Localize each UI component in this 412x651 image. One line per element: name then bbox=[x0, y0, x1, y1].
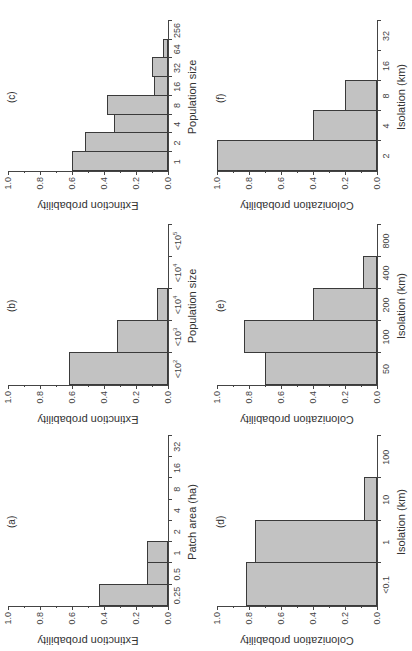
y-minor-tick bbox=[329, 171, 330, 173]
bar bbox=[147, 563, 168, 585]
y-tick-label: 0.0 bbox=[163, 391, 173, 404]
y-minor-tick bbox=[120, 606, 121, 608]
y-minor-tick bbox=[88, 171, 89, 173]
x-tick bbox=[377, 478, 381, 479]
x-tick bbox=[168, 352, 172, 353]
y-minor-tick bbox=[152, 171, 153, 173]
y-tick bbox=[40, 385, 41, 389]
y-axis-title: Extinction probability bbox=[38, 414, 139, 426]
y-tick-label: 0.8 bbox=[244, 391, 254, 404]
y-tick bbox=[313, 171, 314, 175]
chart-panel-d: 0.00.20.40.60.81.0<0.1110100Isolation (k… bbox=[217, 437, 377, 607]
y-tick-label: 0.2 bbox=[131, 612, 141, 625]
chart-panel-f: 0.00.20.40.60.81.02481632Isolation (km)C… bbox=[217, 22, 377, 172]
bar bbox=[114, 114, 168, 134]
x-tick bbox=[168, 151, 172, 152]
y-minor-tick bbox=[24, 606, 25, 608]
x-tick bbox=[168, 76, 172, 77]
plot-area: 0.00.20.40.60.81.00.250.512481632 bbox=[8, 436, 169, 607]
bar bbox=[246, 563, 377, 607]
x-tick bbox=[168, 435, 172, 436]
x-tick-label: 0.25 bbox=[172, 587, 182, 605]
bar bbox=[72, 151, 168, 171]
y-tick-label: 0.6 bbox=[276, 612, 286, 625]
figure: 0.00.20.40.60.81.00.250.512481632Patch a… bbox=[0, 0, 412, 651]
y-tick bbox=[313, 385, 314, 389]
y-tick-label: 0.4 bbox=[99, 177, 109, 190]
y-tick-label: 0.0 bbox=[372, 177, 382, 190]
y-tick bbox=[345, 385, 346, 389]
x-axis-title: Isolation (km) bbox=[395, 64, 407, 130]
y-minor-tick bbox=[152, 385, 153, 387]
x-tick bbox=[168, 563, 172, 564]
chart-panel-c: 0.00.20.40.60.81.01248163264256Populatio… bbox=[8, 22, 168, 172]
y-tick bbox=[281, 171, 282, 175]
y-minor-tick bbox=[265, 171, 266, 173]
y-tick bbox=[8, 171, 9, 175]
y-tick-label: 0.6 bbox=[67, 177, 77, 190]
bar bbox=[154, 76, 168, 96]
x-tick-label: 1 bbox=[381, 540, 391, 545]
y-tick-label: 1.0 bbox=[3, 612, 13, 625]
y-tick-label: 0.0 bbox=[372, 391, 382, 404]
x-tick-label: 4 bbox=[172, 122, 182, 127]
bar bbox=[363, 256, 377, 289]
bar bbox=[313, 288, 377, 321]
bar bbox=[217, 140, 377, 171]
y-tick bbox=[72, 171, 73, 175]
y-tick-label: 0.6 bbox=[67, 612, 77, 625]
bar bbox=[364, 478, 377, 522]
x-tick-label: 4 bbox=[381, 123, 391, 128]
y-minor-tick bbox=[361, 171, 362, 173]
y-tick bbox=[8, 606, 9, 610]
x-tick-label: 2 bbox=[172, 529, 182, 534]
y-tick bbox=[104, 171, 105, 175]
y-minor-tick bbox=[297, 171, 298, 173]
x-tick bbox=[377, 435, 381, 436]
plot-area: 0.00.20.40.60.81.02481632 bbox=[217, 21, 378, 172]
y-minor-tick bbox=[24, 385, 25, 387]
y-tick-label: 0.2 bbox=[340, 612, 350, 625]
y-tick bbox=[281, 606, 282, 610]
y-tick-label: 0.4 bbox=[308, 177, 318, 190]
y-tick-label: 0.2 bbox=[340, 391, 350, 404]
x-tick-label: 16 bbox=[172, 463, 182, 473]
y-tick-label: 0.8 bbox=[35, 391, 45, 404]
y-tick-label: 0.4 bbox=[99, 391, 109, 404]
y-tick-label: 1.0 bbox=[212, 612, 222, 625]
x-tick bbox=[168, 478, 172, 479]
x-axis-title: Patch area (ha) bbox=[186, 484, 198, 560]
x-tick bbox=[168, 584, 172, 585]
bar bbox=[107, 95, 168, 115]
x-tick bbox=[377, 320, 381, 321]
y-tick-label: 0.8 bbox=[35, 177, 45, 190]
y-tick-label: 0.6 bbox=[67, 391, 77, 404]
x-tick-label: 8 bbox=[172, 487, 182, 492]
x-tick-label: 0.5 bbox=[172, 568, 182, 581]
x-tick bbox=[377, 520, 381, 521]
bar bbox=[265, 352, 377, 385]
x-tick-label: <104 bbox=[172, 296, 183, 315]
panel-label: (b) bbox=[6, 300, 17, 312]
y-minor-tick bbox=[265, 606, 266, 608]
y-tick-label: 0.4 bbox=[308, 391, 318, 404]
x-tick-label: 2 bbox=[172, 140, 182, 145]
y-tick-label: 1.0 bbox=[3, 177, 13, 190]
y-axis-title: Colonization probability bbox=[240, 200, 354, 212]
x-tick-label: 400 bbox=[381, 265, 391, 280]
x-tick-label: <102 bbox=[172, 360, 183, 379]
y-tick bbox=[377, 385, 378, 389]
y-tick bbox=[40, 606, 41, 610]
y-minor-tick bbox=[24, 171, 25, 173]
panel-label: (e) bbox=[215, 300, 226, 312]
x-tick-label: 16 bbox=[172, 82, 182, 92]
x-tick bbox=[168, 541, 172, 542]
y-tick bbox=[8, 385, 9, 389]
x-tick-label: 8 bbox=[381, 93, 391, 98]
x-tick bbox=[168, 456, 172, 457]
x-tick bbox=[377, 20, 381, 21]
bar bbox=[345, 80, 377, 111]
y-tick-label: 0.0 bbox=[372, 612, 382, 625]
y-tick bbox=[136, 385, 137, 389]
chart-panel-b: 0.00.20.40.60.81.0<102<103<104<104<105Po… bbox=[8, 226, 168, 386]
